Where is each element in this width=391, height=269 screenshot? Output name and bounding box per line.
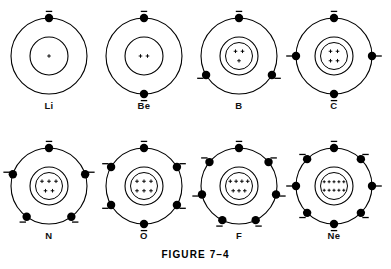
proton-plus-sign: [333, 180, 336, 183]
valence-electron: [368, 182, 382, 190]
proton-plus-sign: [328, 180, 331, 183]
valence-electron: [268, 71, 281, 79]
valence-electron: [45, 141, 53, 152]
valence-electron: [330, 220, 338, 231]
proton-plus-sign: [240, 179, 244, 183]
outer-shell-circle: [106, 18, 182, 94]
proton-plus-sign: [149, 179, 153, 183]
valence-electron: [264, 158, 277, 166]
proton-plus-sign: [149, 189, 153, 193]
valence-electron: [286, 182, 300, 190]
proton-plus-sign: [40, 179, 44, 183]
valence-electron: [357, 209, 369, 218]
atom-label-o: O: [95, 230, 193, 241]
atom-label-ne: Ne: [285, 230, 383, 241]
valence-electron: [140, 90, 148, 101]
valence-electron: [330, 11, 338, 22]
atom-diagram-c: C: [285, 4, 383, 122]
proton-plus-sign: [44, 189, 48, 193]
proton-plus-sign: [342, 180, 345, 183]
valence-electron: [299, 154, 311, 163]
proton-plus-sign: [243, 189, 247, 193]
valence-electron: [197, 71, 210, 79]
atom-diagram-ne: Ne: [285, 134, 383, 252]
proton-plus-sign: [234, 49, 238, 53]
atom-label-be: Be: [95, 100, 193, 111]
valence-electron: [20, 213, 31, 223]
valence-electron: [102, 163, 115, 171]
proton-plus-sign: [142, 179, 146, 183]
proton-plus-sign: [231, 189, 235, 193]
proton-plus-sign: [336, 59, 340, 63]
valence-electron: [368, 52, 382, 60]
proton-plus-sign: [246, 179, 250, 183]
nucleus-circle: [226, 173, 253, 200]
proton-plus-sign: [323, 189, 326, 192]
proton-plus-sign: [336, 49, 340, 53]
proton-plus-sign: [47, 179, 51, 183]
valence-electron: [272, 190, 286, 198]
nucleus-circle: [321, 173, 348, 200]
atomic-structure-figure: LiBeBCNOFNe FIGURE 7–4: [0, 0, 391, 269]
valence-electron: [140, 220, 148, 231]
atom-diagram-f: F: [190, 134, 288, 252]
atom-diagram-be: Be: [95, 4, 193, 122]
valence-electron: [235, 11, 243, 22]
outer-shell-circle: [296, 18, 372, 94]
nucleus-circle: [131, 173, 158, 200]
valence-electron: [3, 170, 17, 178]
proton-plus-sign: [323, 180, 326, 183]
valence-electron: [286, 52, 300, 60]
valence-electron: [299, 209, 311, 218]
outer-shell-circle: [106, 148, 182, 224]
valence-electron: [173, 163, 186, 171]
valence-electron: [140, 141, 148, 152]
nucleus-circle: [321, 43, 348, 70]
valence-electron: [45, 11, 53, 22]
proton-plus-sign: [139, 54, 143, 58]
proton-plus-sign: [328, 189, 331, 192]
nucleus-circle: [36, 173, 63, 200]
atom-label-n: N: [0, 230, 98, 241]
proton-plus-sign: [142, 189, 146, 193]
proton-plus-sign: [135, 189, 139, 193]
proton-plus-sign: [241, 49, 245, 53]
valence-electron: [81, 170, 95, 178]
proton-plus-sign: [54, 179, 58, 183]
outer-shell-circle: [11, 148, 87, 224]
atom-label-b: B: [190, 100, 288, 111]
atom-label-c: C: [285, 100, 383, 111]
outer-shell-circle: [201, 18, 277, 94]
proton-plus-sign: [47, 54, 51, 58]
proton-plus-sign: [146, 54, 150, 58]
valence-electron: [140, 11, 148, 22]
proton-plus-sign: [237, 59, 241, 63]
valence-electron: [173, 201, 186, 209]
proton-plus-sign: [237, 189, 241, 193]
valence-electron: [67, 213, 78, 223]
proton-plus-sign: [333, 189, 336, 192]
proton-plus-sign: [234, 179, 238, 183]
valence-electron: [102, 201, 115, 209]
proton-plus-sign: [337, 180, 340, 183]
valence-electron: [201, 158, 214, 166]
atom-diagram-b: B: [190, 4, 288, 122]
proton-plus-sign: [329, 49, 333, 53]
valence-electron: [357, 154, 369, 163]
figure-caption: FIGURE 7–4: [0, 249, 391, 260]
atom-diagram-li: Li: [0, 4, 98, 122]
valence-electron: [330, 141, 338, 152]
inner-shell-circle: [125, 37, 163, 75]
nucleus-circle: [226, 43, 253, 70]
proton-plus-sign: [342, 189, 345, 192]
valence-electron: [235, 141, 243, 152]
valence-electron: [330, 90, 338, 101]
atom-label-f: F: [190, 230, 288, 241]
proton-plus-sign: [337, 189, 340, 192]
proton-plus-sign: [51, 189, 55, 193]
atom-diagram-n: N: [0, 134, 98, 252]
proton-plus-sign: [229, 179, 233, 183]
atom-diagram-o: O: [95, 134, 193, 252]
proton-plus-sign: [329, 59, 333, 63]
valence-electron: [192, 190, 206, 198]
